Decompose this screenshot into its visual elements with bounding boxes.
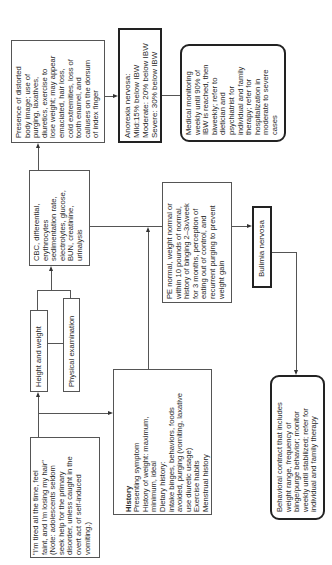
anorexia-findings-box: Presence of distorted body image; use of… <box>11 40 105 143</box>
edge-anorexia-to-mgmt <box>162 95 180 96</box>
edge-labs-to-bulimia-findings <box>90 226 162 227</box>
edge-complaint-to-height <box>38 395 39 438</box>
edge-bracket-horizontal <box>37 290 71 291</box>
bulimia-findings-text: PE normal, weight normal or within 10 po… <box>166 187 226 299</box>
anorexia-dx-box: Anorexia nervosa: Mild:15% below IBW Mod… <box>118 28 162 143</box>
arrow-up-icon <box>36 392 40 397</box>
arrow-up-icon <box>146 227 150 232</box>
history-text-wrap: HistoryPresenting symptom History of wei… <box>116 372 211 512</box>
edge-bulimia-right <box>272 252 296 253</box>
history-box: HistoryPresenting symptom History of wei… <box>113 369 212 515</box>
presenting-complaint-box: "I'm tired all the time, feel faint, and… <box>30 437 100 558</box>
history-text: Presenting symptom History of weight: ma… <box>132 393 210 512</box>
labs-text: CBC, differential, erythrocytes sediment… <box>33 175 85 261</box>
bulimia-mgmt-box: Behavioral contract that includes weight… <box>270 375 325 520</box>
height-weight-text: Height and weight <box>35 315 44 387</box>
edge-history-up <box>148 230 149 369</box>
bulimia-dx-box: Bulimia nervosa <box>252 206 272 288</box>
edge-labs-to-anorexia-findings <box>38 147 39 170</box>
anorexia-dx-text: Anorexia nervosa: Mild:15% below IBW Mod… <box>123 34 159 138</box>
bulimia-findings-box: PE normal, weight normal or within 10 po… <box>162 182 232 303</box>
edge-bracket-to-labs <box>51 270 52 290</box>
labs-box: CBC, differential, erythrocytes sediment… <box>29 170 90 266</box>
edge-complaint-to-history <box>38 413 109 414</box>
arrow-up-icon <box>49 266 53 271</box>
anorexia-mgmt-box: Medical monitoring weekly until 90% of I… <box>180 44 286 142</box>
bulimia-mgmt-text: Behavioral contract that includes weight… <box>276 384 319 512</box>
edge-phys-up <box>70 290 71 298</box>
physical-exam-text: Physical examination <box>67 303 76 387</box>
height-weight-box: Height and weight <box>30 310 48 392</box>
bulimia-dx-text: Bulimia nervosa <box>258 217 267 277</box>
presenting-complaint-text: "I'm tired all the time, feel faint, and… <box>32 441 92 555</box>
edge-bulimia-down <box>296 252 297 371</box>
anorexia-mgmt-text: Medical monitoring weekly until 90% of I… <box>185 49 280 135</box>
arrow-up-icon <box>36 143 40 148</box>
edge-height-up <box>37 290 38 310</box>
edge-height-phys-link <box>48 343 63 344</box>
edge-pe-to-bulimia <box>232 226 248 227</box>
physical-exam-box: Physical examination <box>63 298 80 392</box>
anorexia-findings-text: Presence of distorted body image; use of… <box>15 44 101 138</box>
